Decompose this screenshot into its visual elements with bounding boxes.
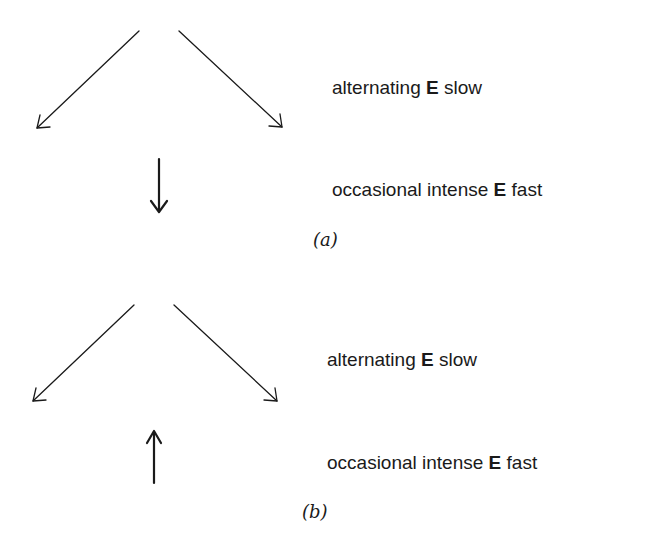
field-symbol-e: E [421, 349, 434, 370]
field-symbol-e: E [426, 77, 439, 98]
caption-b: (b) [302, 501, 328, 522]
arrow-down-left-icon [33, 305, 134, 401]
label-text: fast [501, 452, 537, 473]
arrow-down-icon [151, 159, 167, 212]
panel-a: alternating E slow occasional intense E … [0, 0, 646, 270]
label-text: alternating [332, 77, 426, 98]
arrow-up-icon [147, 431, 161, 483]
field-symbol-e: E [494, 179, 507, 200]
label-intense-fast: occasional intense E fast [327, 452, 537, 474]
label-text: fast [506, 179, 542, 200]
label-alternating-slow: alternating E slow [327, 349, 477, 371]
label-text: occasional intense [332, 179, 494, 200]
arrow-down-right-icon [174, 305, 277, 401]
arrow-down-left-icon [37, 31, 139, 128]
caption-a: (a) [313, 229, 338, 250]
label-text: slow [434, 349, 477, 370]
label-intense-fast: occasional intense E fast [332, 179, 542, 201]
label-text: slow [439, 77, 482, 98]
arrow-down-right-icon [179, 31, 282, 127]
label-text: alternating [327, 349, 421, 370]
field-symbol-e: E [489, 452, 502, 473]
label-alternating-slow: alternating E slow [332, 77, 482, 99]
panel-b: alternating E slow occasional intense E … [0, 275, 646, 541]
label-text: occasional intense [327, 452, 489, 473]
